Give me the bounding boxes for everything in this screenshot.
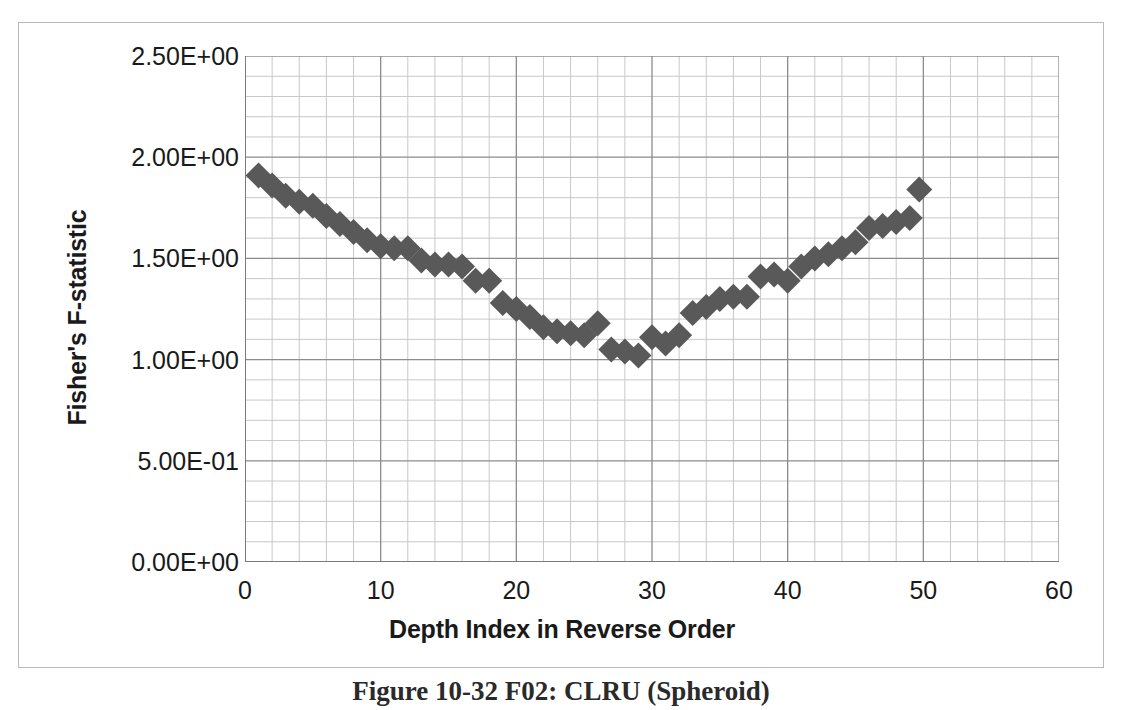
x-axis-tick-label: 10 xyxy=(341,576,421,605)
data-point-marker xyxy=(476,268,502,294)
figure-caption: Figure 10-32 F02: CLRU (Spheroid) xyxy=(0,676,1122,707)
chart-frame: Fisher's F-statistic 0.00E+005.00E-011.0… xyxy=(18,22,1104,668)
scatter-plot-svg xyxy=(245,56,1059,562)
data-point-marker xyxy=(906,177,932,203)
x-axis-tick-label: 40 xyxy=(748,576,828,605)
plot-area xyxy=(245,56,1059,562)
x-axis-tick-label: 20 xyxy=(476,576,556,605)
figure-root: Fisher's F-statistic 0.00E+005.00E-011.0… xyxy=(0,0,1122,710)
x-axis-tick-label: 50 xyxy=(883,576,963,605)
x-axis-tick-label: 60 xyxy=(1019,576,1099,605)
data-point-marker xyxy=(734,284,760,310)
x-axis-tick-label: 30 xyxy=(612,576,692,605)
x-axis-title: Depth Index in Reverse Order xyxy=(19,615,1105,644)
x-axis-tick-label: 0 xyxy=(205,576,285,605)
